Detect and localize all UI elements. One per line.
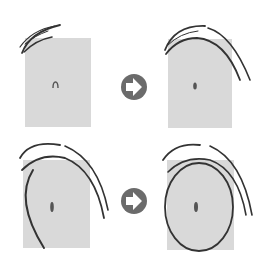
right-arrow-icon (121, 188, 147, 214)
diagram-canvas (0, 0, 268, 265)
panel-step-3 (20, 144, 108, 248)
panel-step-1 (20, 25, 91, 127)
panel-step-4 (163, 145, 252, 251)
right-arrow-icon (121, 74, 147, 100)
eye-drawing-diagram (0, 0, 268, 265)
panel-step-2 (165, 26, 250, 128)
